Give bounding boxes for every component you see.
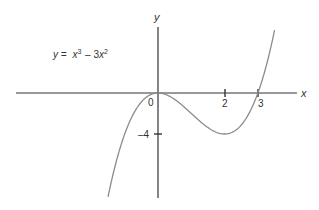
x-tick-label-3: 3 — [258, 98, 264, 109]
origin-label: 0 — [148, 97, 154, 108]
cubic-curve — [108, 30, 274, 197]
x-axis-label: x — [300, 87, 307, 99]
x-tick-label-2: 2 — [222, 98, 228, 109]
cubic-graph: y x 0 2 3 –4 y = x3 – 3x2 — [0, 0, 319, 210]
y-axis-label: y — [153, 11, 161, 23]
equation-label: y = x3 – 3x2 — [52, 45, 108, 60]
y-tick-label-neg4: –4 — [138, 129, 150, 140]
